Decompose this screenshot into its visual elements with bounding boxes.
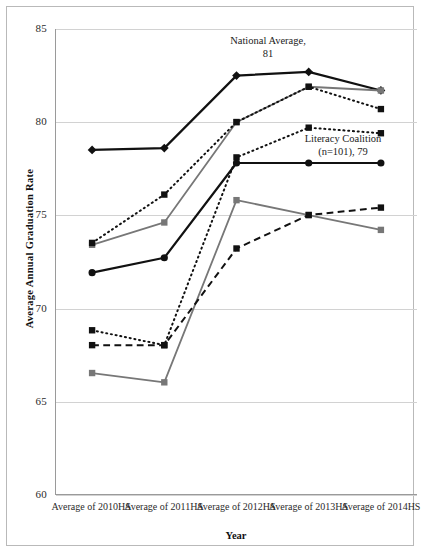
x-axis-tick-label-4: Average of 2014HS xyxy=(339,501,422,514)
data-point-3-0 xyxy=(89,327,95,333)
data-point-1-4 xyxy=(378,87,384,93)
y-axis-tick-label-75: 75 xyxy=(7,208,47,220)
data-point-4-4 xyxy=(377,159,384,166)
y-axis-tick-label-70: 70 xyxy=(7,302,47,314)
series-line-4 xyxy=(92,163,381,273)
data-point-1-1 xyxy=(161,219,167,225)
series-5 xyxy=(89,197,384,386)
data-point-4-3 xyxy=(305,159,312,166)
data-point-3-3 xyxy=(306,124,312,130)
plot-area xyxy=(55,29,417,495)
data-point-4-0 xyxy=(89,269,96,276)
data-point-6-4 xyxy=(378,204,384,210)
data-point-0-3 xyxy=(304,68,313,77)
data-point-6-3 xyxy=(306,212,312,218)
annotation-national-average: National Average, 81 xyxy=(203,35,333,60)
data-point-6-1 xyxy=(161,342,167,348)
series-3 xyxy=(89,124,384,348)
x-axis-tick-label-3: Average of 2013HS xyxy=(266,501,350,514)
x-axis-tick-label-1: Average of 2011HS xyxy=(122,501,206,514)
data-point-2-1 xyxy=(161,191,167,197)
data-point-6-2 xyxy=(233,245,239,251)
y-axis-tick-label-65: 65 xyxy=(7,395,47,407)
gridline-60 xyxy=(56,495,417,496)
x-axis-tick-label-2: Average of 2012HS xyxy=(194,501,278,514)
series-layer xyxy=(56,29,417,494)
series-6 xyxy=(89,204,384,348)
x-axis-title: Year xyxy=(55,530,417,541)
x-axis-tick-label-0: Average of 2010HS xyxy=(49,501,133,514)
data-point-2-3 xyxy=(306,84,312,90)
data-point-5-2 xyxy=(233,197,239,203)
series-4 xyxy=(89,159,385,276)
series-line-5 xyxy=(92,200,381,382)
data-point-6-0 xyxy=(89,342,95,348)
data-point-2-0 xyxy=(89,240,95,246)
data-point-4-2 xyxy=(233,159,240,166)
data-point-0-0 xyxy=(88,146,97,155)
data-point-2-4 xyxy=(378,106,384,112)
data-point-5-0 xyxy=(89,370,95,376)
data-point-2-2 xyxy=(233,119,239,125)
data-point-5-1 xyxy=(161,379,167,385)
series-line-6 xyxy=(92,208,381,346)
y-axis-tick-label-80: 80 xyxy=(7,115,47,127)
chart-container: Average Annual Graduation Rate 606570758… xyxy=(6,6,414,546)
data-point-5-4 xyxy=(378,227,384,233)
annotation-literacy-coalition: Literacy Coalition (n=101), 79 xyxy=(279,133,407,158)
y-axis-tick-label-60: 60 xyxy=(7,488,47,500)
y-axis-tick-label-85: 85 xyxy=(7,22,47,34)
data-point-4-1 xyxy=(161,254,168,261)
